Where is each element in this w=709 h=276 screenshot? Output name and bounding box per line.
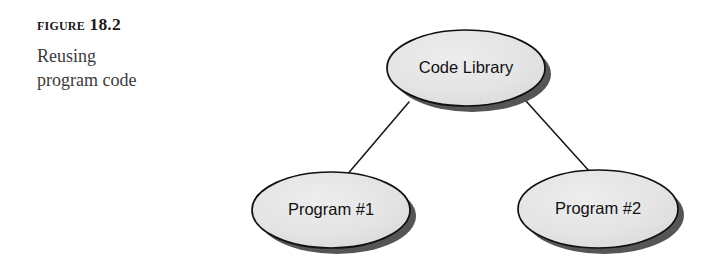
connector-group <box>346 101 590 176</box>
node-code-library[interactable]: Code Library <box>387 30 551 112</box>
edge-library-program2 <box>526 101 590 172</box>
node-program-2[interactable]: Program #2 <box>518 170 684 254</box>
figure-container: Figure 18.2 Reusing program code Code Li… <box>0 0 709 276</box>
node-program-1-label: Program #1 <box>288 200 374 218</box>
node-program-1[interactable]: Program #1 <box>252 172 416 254</box>
node-code-library-label: Code Library <box>419 58 514 76</box>
edge-library-program1 <box>346 102 409 176</box>
diagram-canvas: Code Library Program #1 Program #2 <box>0 0 709 276</box>
node-program-2-label: Program #2 <box>555 199 641 217</box>
